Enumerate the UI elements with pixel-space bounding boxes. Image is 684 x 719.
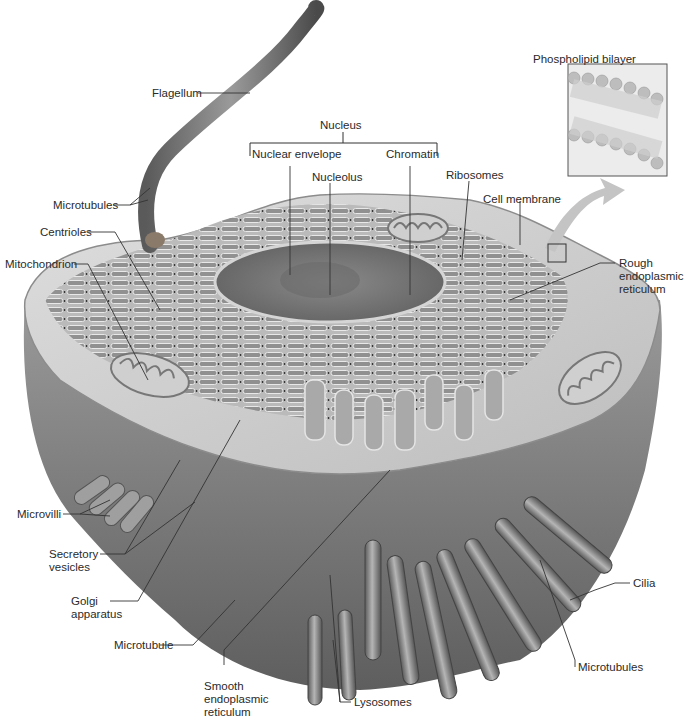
label-microtubules-cilia: Microtubules (578, 661, 643, 674)
label-nucleolus: Nucleolus (312, 171, 363, 184)
inset-title: Phospholipid bilayer (533, 53, 636, 66)
label-rough-er-1: Rough (619, 257, 653, 270)
label-smooth-er-2: endoplasmic (204, 693, 269, 706)
label-secretory-1: Secretory (49, 548, 98, 561)
label-nucleus: Nucleus (320, 119, 362, 132)
label-lysosomes: Lysosomes (354, 696, 412, 709)
label-microvilli: Microvilli (17, 508, 61, 521)
label-nuclear-envelope: Nuclear envelope (252, 148, 342, 161)
label-mitochondrion: Mitochondrion (5, 258, 77, 271)
label-cell-membrane: Cell membrane (483, 193, 561, 206)
label-microtubules-flagellum: Microtubules (53, 199, 118, 212)
label-cilia: Cilia (633, 577, 655, 590)
label-microtubule: Microtubule (114, 639, 173, 652)
label-chromatin: Chromatin (386, 148, 439, 161)
label-centrioles: Centrioles (40, 226, 92, 239)
label-rough-er-3: reticulum (619, 283, 666, 296)
label-flagellum: Flagellum (152, 87, 202, 100)
label-secretory-2: vesicles (49, 561, 90, 574)
label-ribosomes: Ribosomes (446, 169, 504, 182)
label-smooth-er-3: reticulum (204, 706, 251, 719)
label-golgi-2: apparatus (71, 608, 122, 621)
label-golgi-1: Golgi (71, 595, 98, 608)
label-smooth-er-1: Smooth (204, 680, 244, 693)
phospholipid-bilayer-inset (545, 64, 667, 262)
label-rough-er-2: endoplasmic (619, 270, 684, 283)
